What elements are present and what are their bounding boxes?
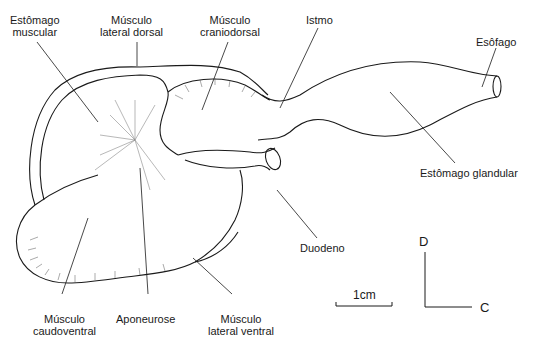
scale-bar [336, 302, 392, 306]
leader-estomago-glandular [390, 92, 455, 163]
label-musculo-craniodorsal: Músculo craniodorsal [200, 14, 260, 38]
label-musculo-lateral-dorsal: Músculo lateral dorsal [100, 14, 163, 38]
esophagus-opening [493, 76, 501, 97]
label-aponeurose: Aponeurose [116, 313, 175, 325]
scale-bar-label: 1cm [353, 288, 376, 302]
duodenum [178, 148, 275, 155]
leader-musculo-lateral-ventral [193, 258, 232, 294]
label-musculo-caudoventral: Músculo caudoventral [33, 313, 96, 337]
label-estomago-glandular: Estômago glandular [420, 167, 518, 179]
orientation-label-d: D [419, 234, 428, 249]
orientation-axes [425, 252, 472, 307]
label-istmo: Istmo [306, 14, 333, 26]
leader-estomago-muscular [37, 42, 98, 122]
label-musculo-lateral-ventral: Músculo lateral ventral [208, 313, 274, 337]
label-esofago: Esôfago [476, 36, 516, 48]
label-duodeno: Duodeno [300, 242, 345, 254]
leader-duodeno [277, 190, 317, 238]
caudoventral-lobe [16, 170, 242, 283]
isthmus-lower [258, 97, 497, 140]
leader-musculo-craniodorsal [202, 42, 228, 110]
label-estomago-muscular: Estômago muscular [10, 14, 60, 38]
gizzard-outline [30, 65, 268, 205]
orientation-label-c: C [480, 300, 489, 315]
isthmus-upper [262, 62, 497, 101]
